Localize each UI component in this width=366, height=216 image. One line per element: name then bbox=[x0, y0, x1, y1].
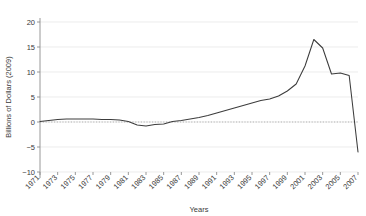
x-tick-label: 2007 bbox=[341, 173, 359, 191]
x-tick-label: 1995 bbox=[235, 173, 253, 191]
y-tick-label: 15 bbox=[27, 43, 35, 52]
y-tick-label: 20 bbox=[27, 18, 35, 27]
x-tick-label: 1975 bbox=[59, 173, 77, 191]
x-axis-ticks-group: 1971197319751977197919811983198519871989… bbox=[23, 172, 359, 191]
data-series-line bbox=[40, 40, 358, 153]
y-tick-label: 5 bbox=[31, 93, 35, 102]
x-tick-label: 1973 bbox=[41, 173, 59, 191]
x-tick-label: 1999 bbox=[271, 173, 289, 191]
chart-container: −10−505101520 19711973197519771979198119… bbox=[0, 0, 366, 216]
x-tick-label: 1977 bbox=[76, 173, 94, 191]
x-tick-label: 1987 bbox=[165, 173, 183, 191]
x-tick-label: 1985 bbox=[147, 173, 165, 191]
x-axis-label: Years bbox=[190, 205, 209, 214]
x-tick-label: 1979 bbox=[94, 173, 112, 191]
y-tick-label: 0 bbox=[31, 118, 35, 127]
x-tick-label: 1997 bbox=[253, 173, 271, 191]
x-tick-label: 1989 bbox=[182, 173, 200, 191]
x-tick-label: 1981 bbox=[112, 173, 130, 191]
x-tick-label: 2003 bbox=[306, 173, 324, 191]
y-tick-label: 10 bbox=[27, 68, 35, 77]
x-tick-label: 1993 bbox=[218, 173, 236, 191]
y-axis-label: Billions of Dollars (2009) bbox=[4, 56, 13, 138]
x-tick-label: 2005 bbox=[324, 173, 342, 191]
gridlines-group bbox=[40, 22, 358, 172]
x-tick-label: 1991 bbox=[200, 173, 218, 191]
x-tick-label: 2001 bbox=[288, 173, 306, 191]
y-tick-label: −5 bbox=[26, 143, 35, 152]
x-tick-label: 1983 bbox=[129, 173, 147, 191]
y-axis-ticks-group: −10−505101520 bbox=[22, 18, 40, 177]
line-chart: −10−505101520 19711973197519771979198119… bbox=[0, 0, 366, 216]
